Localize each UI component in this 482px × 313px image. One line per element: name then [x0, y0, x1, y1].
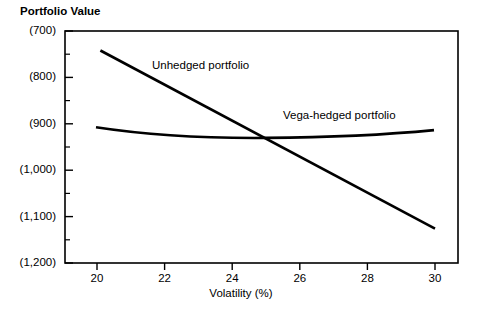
x-axis-title: Volatility (%) [0, 288, 482, 300]
chart-canvas [0, 0, 482, 313]
x-tick-label-22: 22 [145, 273, 185, 285]
series-label-unhedged-portfolio: Unhedged portfolio [152, 60, 249, 72]
x-tick-label-24: 24 [212, 273, 252, 285]
y-axis-title: Portfolio Value [20, 6, 101, 18]
x-tick-label-26: 26 [280, 273, 320, 285]
y-tick-label-1000: (1,000) [0, 164, 56, 176]
chart-figure: Portfolio Value (700) (800) (900) (1,000… [0, 0, 482, 313]
y-tick-label-900: (900) [0, 118, 56, 130]
y-tick-label-1100: (1,100) [0, 211, 56, 223]
x-tick-label-28: 28 [347, 273, 387, 285]
x-axis-ticks [97, 263, 435, 270]
y-tick-label-1200: (1,200) [0, 257, 56, 269]
x-tick-label-30: 30 [415, 273, 455, 285]
plot-frame [65, 31, 458, 263]
y-tick-label-700: (700) [0, 25, 56, 37]
y-tick-label-800: (800) [0, 71, 56, 83]
x-tick-label-20: 20 [77, 273, 117, 285]
series-label-vega-hedged-portfolio: Vega-hedged portfolio [283, 110, 396, 122]
plot-area-border [65, 31, 458, 263]
